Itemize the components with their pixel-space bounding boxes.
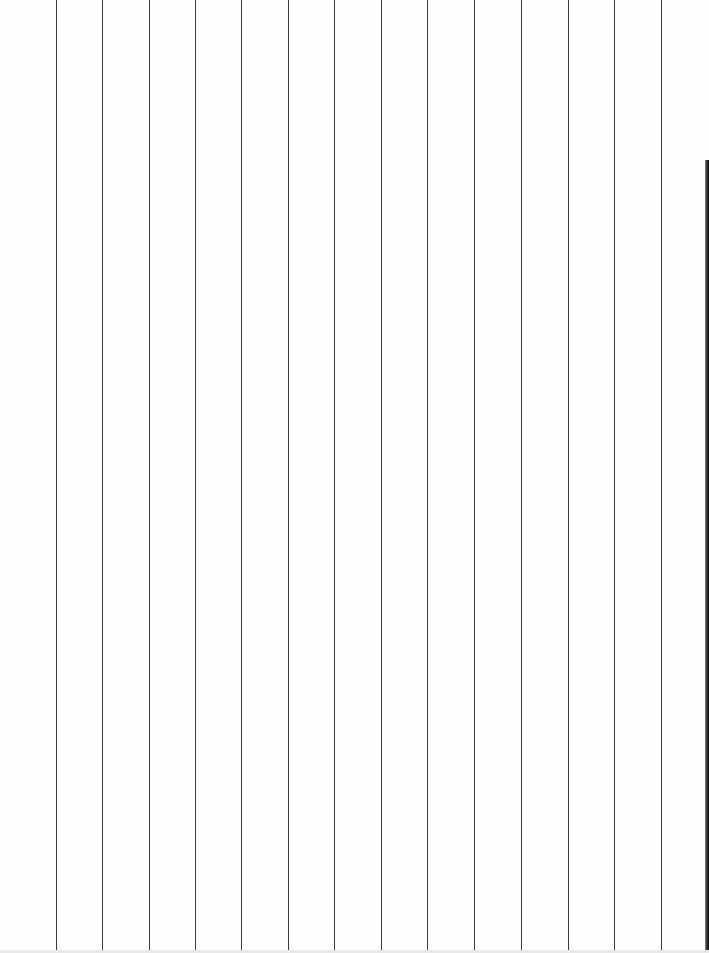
ruled-line (56, 0, 57, 953)
ruled-line (195, 0, 196, 953)
ruled-line (149, 0, 150, 953)
ruled-line (614, 0, 615, 953)
ruled-line (334, 0, 335, 953)
ruled-line (474, 0, 475, 953)
ruled-line (661, 0, 662, 953)
ruled-line (568, 0, 569, 953)
ruled-paper-page (0, 0, 709, 953)
ruled-line (288, 0, 289, 953)
ruled-line (241, 0, 242, 953)
ruled-line (521, 0, 522, 953)
ruled-line (427, 0, 428, 953)
ruled-line (381, 0, 382, 953)
binding-edge-shadow (705, 160, 709, 953)
ruled-line (102, 0, 103, 953)
